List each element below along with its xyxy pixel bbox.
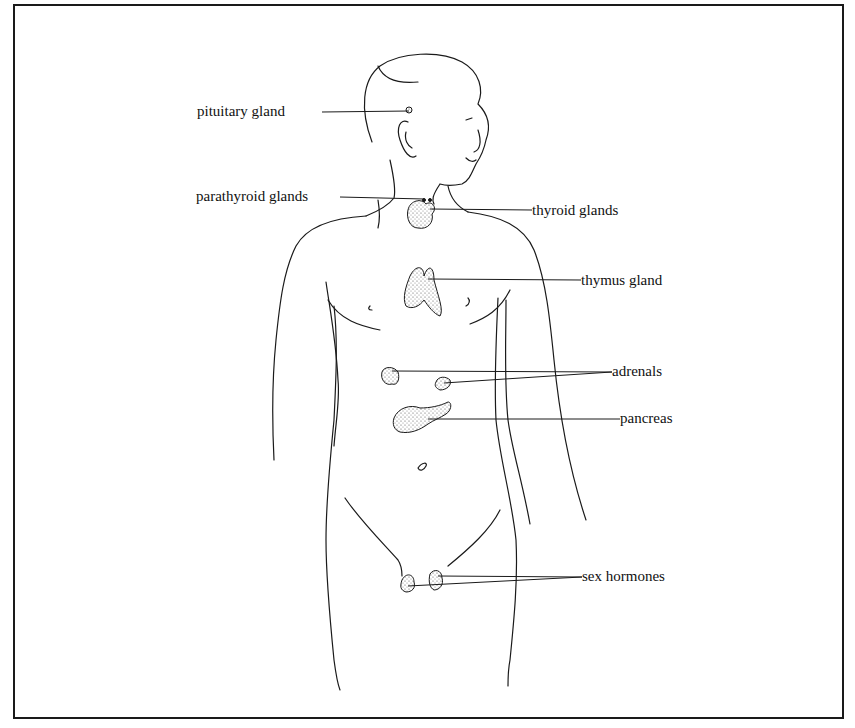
label-adrenals: adrenals: [612, 364, 662, 379]
sex-hormones-leader-1: [438, 576, 582, 577]
thyroid-leader: [430, 209, 532, 210]
parathyroid-leader: [340, 197, 424, 199]
torso-left: [326, 306, 340, 690]
thymus-gland-shape: [404, 268, 441, 316]
adrenal-right-shape: [435, 377, 450, 390]
head-outline: [364, 54, 488, 204]
ear-outline: [398, 121, 416, 157]
body-diagram: [0, 0, 855, 728]
adrenals-leader-2: [444, 372, 612, 383]
adrenals-leader-1: [392, 371, 612, 372]
leader-lines: [322, 111, 620, 586]
sex-gland-left-shape: [401, 575, 415, 592]
pituitary-leader: [322, 111, 409, 112]
thymus-leader: [428, 279, 581, 280]
thyroid-gland-shape: [407, 201, 434, 229]
label-thyroid-glands: thyroid glands: [532, 203, 618, 218]
pancreas-shape: [393, 402, 451, 433]
adrenal-left-shape: [382, 368, 399, 385]
label-parathyroid-glands: parathyroid glands: [196, 189, 308, 204]
label-pancreas: pancreas: [620, 411, 672, 426]
label-thymus-gland: thymus gland: [581, 273, 662, 288]
right-arm-outer: [468, 212, 586, 520]
label-sex-hormones: sex hormones: [582, 569, 665, 584]
glands: [382, 107, 451, 592]
sex-gland-right-shape: [429, 571, 442, 590]
pituitary-gland-shape: [406, 107, 412, 113]
left-arm-outer: [273, 216, 366, 460]
navel: [418, 463, 426, 470]
label-pituitary-gland: pituitary gland: [197, 104, 285, 119]
